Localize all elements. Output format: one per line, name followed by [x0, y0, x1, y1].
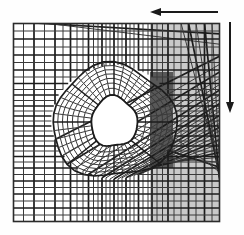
mesh-figure	[0, 0, 244, 235]
finite-element-mesh-canvas	[0, 0, 244, 235]
